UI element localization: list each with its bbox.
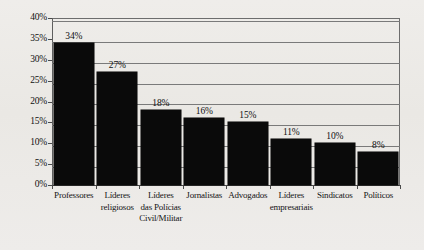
y-axis-tick-mark [48,164,52,165]
bar [271,139,311,185]
category-label-line: das Polícias [130,202,192,214]
bar [54,43,94,185]
x-axis-tick-mark [52,185,53,189]
y-axis-tick-label: 25% [3,75,47,85]
bar [141,110,181,185]
bar-value-label: 27% [90,60,146,70]
bar [228,122,268,185]
bar [184,118,224,185]
x-axis-tick-mark [400,185,401,189]
category-label-line: Civil/Militar [130,213,192,225]
y-axis-tick-mark [48,122,52,123]
bar-value-label: 15% [220,110,276,120]
y-axis-tick-label: 35% [3,33,47,43]
x-axis-tick-mark [313,185,314,189]
y-axis-tick-label: 5% [3,158,47,168]
gridline [52,21,400,22]
y-axis-tick-label: 40% [3,12,47,22]
y-axis-tick-mark [48,81,52,82]
bar-value-label: 34% [46,31,102,41]
category-label: Políticos [348,190,410,202]
bar [315,143,355,185]
y-axis-tick-label: 20% [3,96,47,106]
x-axis-tick-mark [96,185,97,189]
x-axis-tick-mark [226,185,227,189]
y-axis-tick-mark [48,18,52,19]
category-label-line: empresariais [261,202,323,214]
y-axis-tick-label: 10% [3,137,47,147]
bar [97,72,137,185]
gridline [52,42,400,43]
x-axis-tick-mark [357,185,358,189]
x-axis-tick-mark [183,185,184,189]
y-axis-tick-mark [48,143,52,144]
bar [358,152,398,185]
x-axis-tick-mark [270,185,271,189]
category-label-line: Políticos [348,190,410,202]
y-axis-tick-mark [48,60,52,61]
y-axis-tick-label: 15% [3,116,47,126]
x-axis-tick-mark [139,185,140,189]
y-axis-tick-label: 30% [3,54,47,64]
bar-value-label: 8% [351,140,407,150]
y-axis-tick-label: 0% [3,179,47,189]
chart-page: 0%5%10%15%20%25%30%35%40% 34%27%18%16%15… [0,0,424,250]
y-axis-tick-mark [48,102,52,103]
